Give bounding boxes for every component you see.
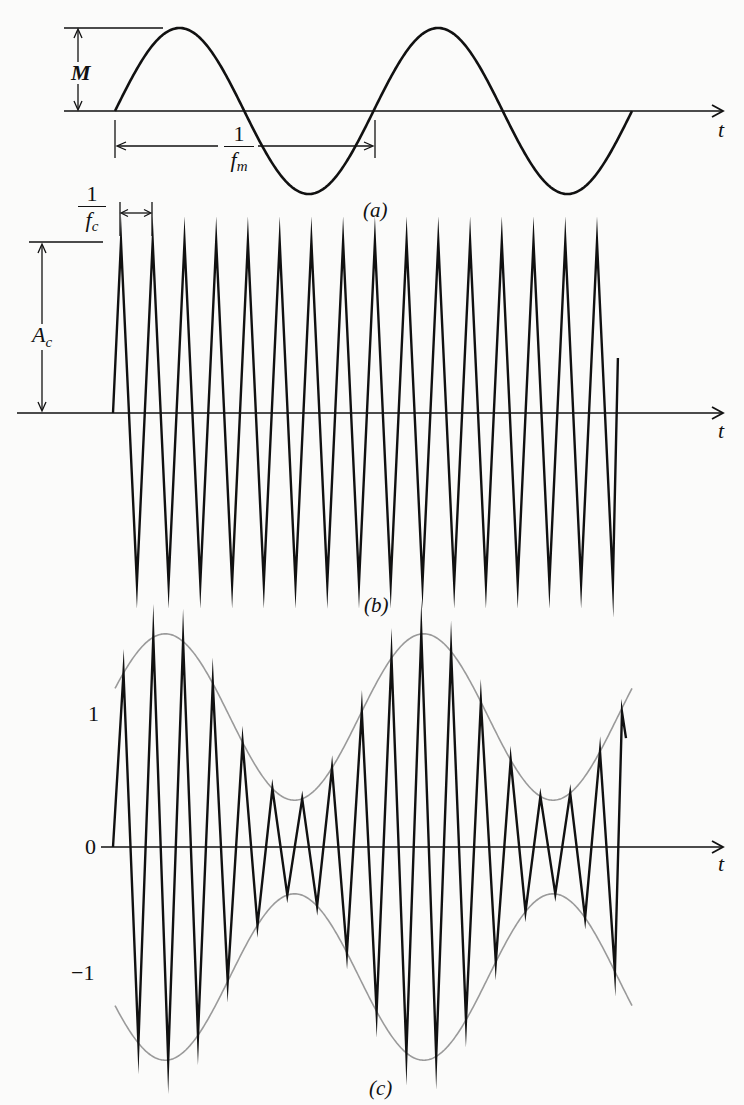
panel-a-axis-label-t: t <box>718 119 724 141</box>
upper-envelope <box>115 634 632 800</box>
panel-b <box>17 202 723 583</box>
amplitude-label-m: M <box>70 62 92 84</box>
panel-c-axis-label-t: t <box>718 853 724 875</box>
y-tick-1: 1 <box>88 703 99 725</box>
period-label-denominator: fm <box>224 149 254 177</box>
panel-a-caption: (a) <box>363 200 388 221</box>
panel-c <box>101 634 723 1060</box>
am-modulation-figure <box>0 0 744 1105</box>
amplitude-label-ac: Ac <box>30 324 54 350</box>
period-label-fc: 1 fc <box>78 183 106 237</box>
period-label-numerator: 1 <box>224 123 254 145</box>
panel-b-axis-label-t: t <box>718 420 724 442</box>
panel-c-caption: (c) <box>369 1078 392 1099</box>
carrier-period-denominator: fc <box>78 209 106 237</box>
fraction-bar <box>78 206 106 207</box>
carrier-period-numerator: 1 <box>78 183 106 205</box>
y-tick-minus-1: −1 <box>71 962 94 984</box>
y-tick-0: 0 <box>85 836 96 858</box>
panel-b-caption: (b) <box>364 595 389 616</box>
panel-a <box>64 28 723 194</box>
period-label-fm: 1 fm <box>224 123 254 177</box>
fraction-bar <box>224 146 254 147</box>
